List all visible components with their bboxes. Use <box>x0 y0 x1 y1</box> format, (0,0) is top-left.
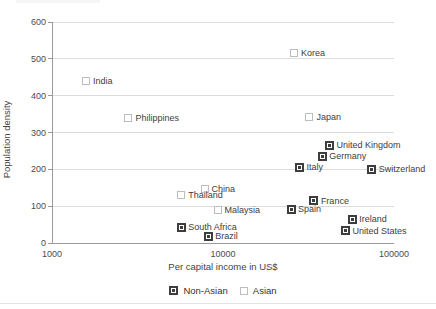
y-tick-label: 600 <box>6 17 46 27</box>
data-point-label: Japan <box>316 112 341 122</box>
x-tick-label: 1000 <box>22 249 82 259</box>
data-point-marker <box>82 77 90 85</box>
y-axis-line <box>52 22 53 243</box>
data-point-label: Spain <box>298 204 321 214</box>
data-point-marker <box>325 141 334 150</box>
data-point-label: Korea <box>301 48 325 58</box>
gridline <box>52 169 394 170</box>
x-axis-title: Per capital income in US$ <box>52 261 394 272</box>
x-axis-line <box>52 243 394 244</box>
data-point-marker <box>204 232 213 241</box>
page-rule <box>0 303 436 304</box>
data-point-marker <box>287 205 296 214</box>
legend-item: Asian <box>240 285 277 296</box>
legend-item: Non-Asian <box>169 285 227 296</box>
filled-square-icon <box>169 286 178 295</box>
y-tick-label: 300 <box>6 128 46 138</box>
data-point-marker <box>124 114 132 122</box>
gridline <box>52 95 394 96</box>
legend: Non-AsianAsian <box>52 285 394 296</box>
data-point-marker <box>305 113 313 121</box>
legend-label: Asian <box>253 285 277 296</box>
gridline <box>52 206 394 207</box>
y-tick-label: 500 <box>6 54 46 64</box>
x-tick-label: 10000 <box>193 249 253 259</box>
data-point-marker <box>367 165 376 174</box>
gridline <box>52 132 394 133</box>
data-point-label: Italy <box>306 162 323 172</box>
chart-screenshot: Population density Per capital income in… <box>0 0 436 309</box>
scatter-chart: Population density Per capital income in… <box>0 0 436 309</box>
x-tick-label: 100000 <box>364 249 424 259</box>
data-point-label: Thailand <box>188 190 223 200</box>
y-tick-label: 0 <box>6 238 46 248</box>
data-point-marker <box>318 152 327 161</box>
data-point-label: Germany <box>329 151 366 161</box>
y-tick-label: 100 <box>6 201 46 211</box>
data-point-label: United Kingdom <box>337 140 401 150</box>
data-point-label: Switzerland <box>379 164 426 174</box>
y-tick-label: 400 <box>6 91 46 101</box>
open-square-icon <box>240 287 248 295</box>
data-point-label: Philippines <box>135 113 179 123</box>
gridline <box>52 22 394 23</box>
data-point-marker <box>348 215 357 224</box>
data-point-label: Ireland <box>359 214 387 224</box>
legend-label: Non-Asian <box>183 285 227 296</box>
data-point-marker <box>295 163 304 172</box>
data-point-label: United States <box>352 226 406 236</box>
data-point-marker <box>177 223 186 232</box>
y-tick-label: 200 <box>6 164 46 174</box>
data-point-marker <box>341 226 350 235</box>
data-point-marker <box>214 206 222 214</box>
data-point-marker <box>177 191 185 199</box>
data-point-label: Brazil <box>215 231 238 241</box>
gridline <box>52 58 394 59</box>
data-point-marker <box>290 49 298 57</box>
data-point-label: France <box>321 196 349 206</box>
data-point-label: India <box>93 76 113 86</box>
data-point-label: Malaysia <box>225 205 261 215</box>
